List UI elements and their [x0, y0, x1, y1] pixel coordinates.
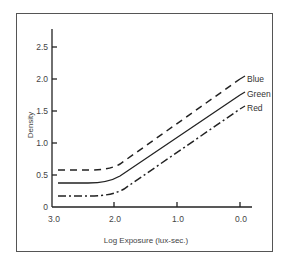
- red-leader: [240, 106, 245, 109]
- green-leader: [240, 92, 245, 95]
- x-axis: [52, 202, 252, 207]
- y-tick-label: 2.5: [36, 42, 48, 52]
- y-tick-label: 0: [43, 202, 48, 212]
- y-tick-label: 2.0: [36, 74, 48, 84]
- y-axis-title: Density: [26, 112, 35, 139]
- legend-label-red: Red: [247, 103, 263, 113]
- characteristic-curve-chart: 0 0.5 1.0 1.5 2.0 2.5 3.0 2.0 1.0 0.0 Lo…: [0, 0, 289, 263]
- x-tick-label: 1.0: [172, 214, 184, 224]
- blue-leader: [240, 76, 245, 79]
- y-tick-label: 1.0: [36, 138, 48, 148]
- x-tick-label: 2.0: [109, 214, 121, 224]
- y-axis: [52, 29, 57, 207]
- x-tick-label: 3.0: [48, 214, 60, 224]
- y-tick-label: 1.5: [36, 106, 48, 116]
- y-tick-label: 0.5: [36, 170, 48, 180]
- x-tick-label: 0.0: [235, 214, 247, 224]
- legend-label-blue: Blue: [247, 74, 264, 84]
- x-axis-title: Log Exposure (lux-sec.): [104, 236, 189, 245]
- legend-label-green: Green: [247, 89, 271, 99]
